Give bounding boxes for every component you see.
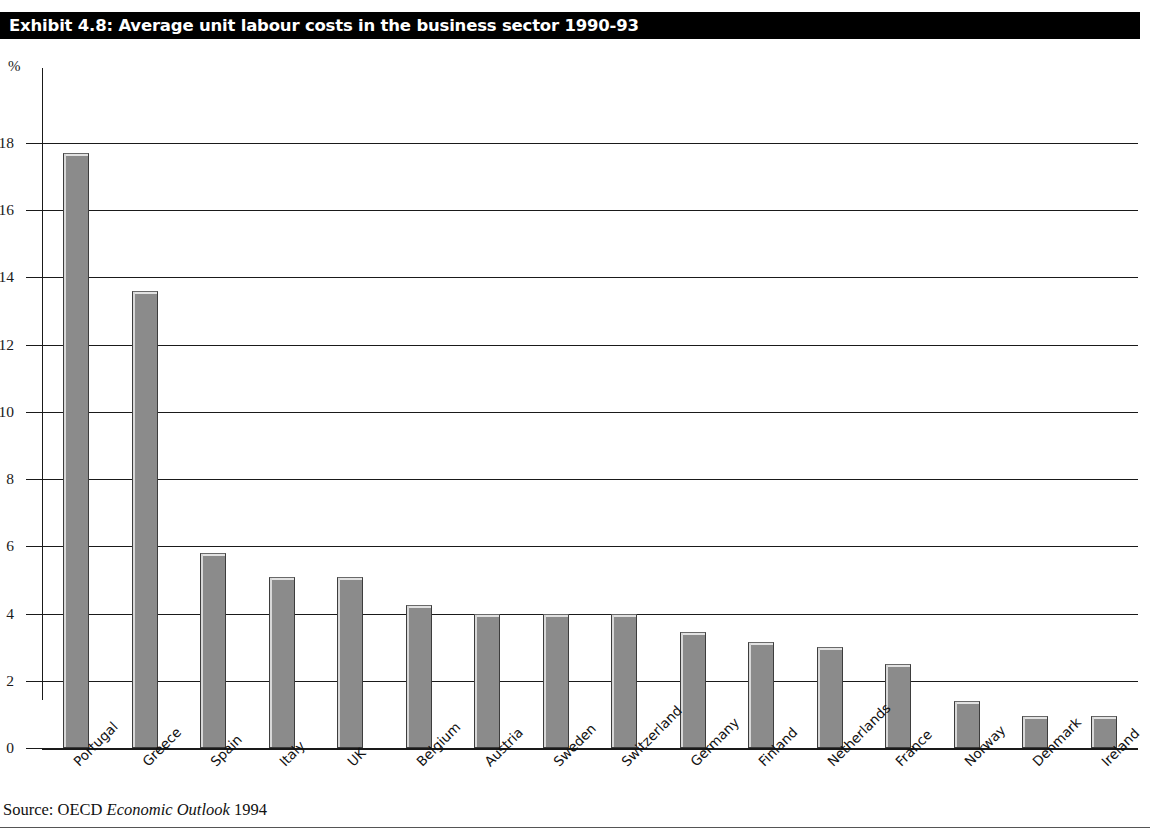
page-title: Exhibit 4.8: Average unit labour costs i… xyxy=(0,16,639,35)
gridline-8 xyxy=(42,479,1138,480)
y-axis-tick-16 xyxy=(26,210,42,211)
y-axis-tick-8 xyxy=(26,479,42,480)
gridline-18 xyxy=(42,143,1138,144)
bar-sweden xyxy=(543,614,569,748)
y-axis-tick-label-2: 2 xyxy=(0,672,14,690)
y-axis-tick-label-18: 18 xyxy=(0,134,14,152)
bar-portugal xyxy=(63,153,89,748)
y-axis-tick-0 xyxy=(26,748,42,749)
gridline-12 xyxy=(42,345,1138,346)
gridline-10 xyxy=(42,412,1138,413)
y-axis-tick-label-10: 10 xyxy=(0,403,14,421)
plot-area: 024681012141618 PortugalGreeceSpainItaly… xyxy=(42,68,1138,768)
bar-germany xyxy=(680,632,706,748)
y-axis-tick-label-0: 0 xyxy=(0,739,14,757)
bar-switzerland xyxy=(611,614,637,748)
y-axis-tick-label-14: 14 xyxy=(0,268,14,286)
y-axis-tick-label-8: 8 xyxy=(0,470,14,488)
bar-netherlands xyxy=(817,647,843,748)
bar-uk xyxy=(337,577,363,748)
y-axis-tick-label-12: 12 xyxy=(0,336,14,354)
y-axis-tick-label-6: 6 xyxy=(0,537,14,555)
y-axis-tick-10 xyxy=(26,412,42,413)
y-axis-tick-12 xyxy=(26,345,42,346)
y-axis-tick-6 xyxy=(26,546,42,547)
exhibit-title-banner: Exhibit 4.8: Average unit labour costs i… xyxy=(0,12,1140,39)
source-year: 1994 xyxy=(230,800,267,819)
y-axis-tick-2 xyxy=(26,681,42,682)
bar-austria xyxy=(474,614,500,748)
y-axis-tick-18 xyxy=(26,143,42,144)
y-axis-tick-label-4: 4 xyxy=(0,605,14,623)
y-axis-unit-label: % xyxy=(8,58,21,75)
gridline-16 xyxy=(42,210,1138,211)
bar-spain xyxy=(200,553,226,748)
source-publication: Economic Outlook xyxy=(107,800,230,819)
bar-italy xyxy=(269,577,295,748)
bar-norway xyxy=(954,701,980,748)
source-note: Source: OECD Economic Outlook 1994 xyxy=(3,800,267,820)
y-axis-tick-4 xyxy=(26,614,42,615)
source-prefix: Source: OECD xyxy=(3,800,107,819)
y-axis-tick-label-16: 16 xyxy=(0,201,14,219)
bar-finland xyxy=(748,642,774,748)
y-axis-line xyxy=(42,68,43,700)
gridline-6 xyxy=(42,546,1138,547)
gridline-14 xyxy=(42,277,1138,278)
bar-greece xyxy=(132,291,158,748)
bar-belgium xyxy=(406,605,432,748)
y-axis-tick-14 xyxy=(26,277,42,278)
bar-chart: % 024681012141618 PortugalGreeceSpainIta… xyxy=(0,48,1155,788)
bottom-divider xyxy=(0,827,1150,828)
